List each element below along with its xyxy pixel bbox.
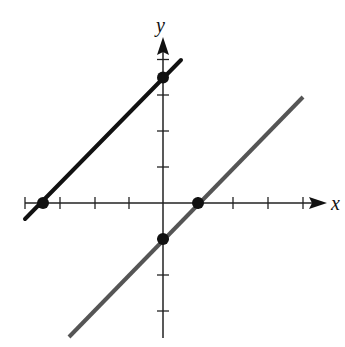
gray-line [69, 97, 303, 337]
y-intercept-point [157, 233, 169, 245]
x-axis-label: x [330, 192, 340, 214]
x-axis: x [25, 192, 340, 214]
x-intercept-point [192, 197, 204, 209]
y-axis: y [154, 14, 169, 338]
coordinate-plane: x y [0, 0, 345, 347]
y-intercept-point [157, 72, 169, 84]
y-axis-label: y [154, 14, 165, 37]
black-line [25, 60, 181, 219]
x-intercept-point [37, 197, 49, 209]
